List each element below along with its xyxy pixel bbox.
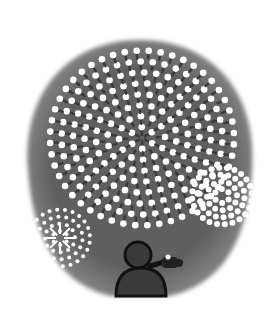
spark — [232, 176, 238, 182]
spark — [222, 221, 228, 227]
spark — [140, 211, 147, 218]
spark — [128, 210, 135, 217]
spark — [103, 66, 110, 73]
spark — [83, 79, 90, 86]
spark — [123, 94, 130, 101]
spark — [110, 52, 117, 59]
spark — [225, 172, 231, 178]
spark — [191, 203, 197, 209]
spark — [200, 215, 206, 221]
spark — [61, 153, 68, 160]
spark — [111, 182, 118, 189]
spark — [214, 221, 220, 227]
spark — [116, 136, 123, 143]
spark — [172, 127, 179, 134]
spark — [221, 214, 227, 220]
spark — [222, 97, 229, 104]
spark — [45, 253, 49, 257]
spark — [78, 200, 85, 207]
spark — [182, 119, 189, 126]
person-body — [116, 268, 166, 296]
spark — [158, 95, 165, 102]
spark — [47, 140, 54, 147]
spark — [124, 199, 131, 206]
spark — [75, 110, 82, 117]
spark — [105, 143, 112, 150]
spark — [217, 172, 223, 178]
spark — [225, 189, 231, 195]
spark — [71, 243, 75, 247]
spark — [28, 239, 32, 243]
spark — [56, 215, 60, 219]
spark — [189, 196, 195, 202]
spark — [106, 77, 113, 84]
spark — [87, 207, 94, 214]
spark — [226, 107, 233, 114]
spark — [161, 61, 168, 68]
spark — [113, 196, 120, 203]
spark — [59, 142, 66, 149]
spark — [204, 194, 210, 200]
spark — [239, 202, 245, 208]
spark — [117, 72, 124, 79]
spark — [246, 205, 252, 211]
spark — [99, 56, 106, 63]
spark — [206, 201, 212, 207]
spark — [45, 244, 49, 248]
spark — [82, 219, 86, 223]
spark — [206, 186, 212, 192]
spark — [70, 77, 77, 84]
spark — [112, 99, 119, 106]
spark — [165, 170, 172, 177]
spark — [209, 166, 215, 172]
spark — [249, 198, 255, 204]
spark — [51, 162, 58, 169]
spark — [136, 102, 143, 109]
spark — [120, 220, 127, 227]
spark — [83, 147, 90, 154]
spark — [80, 100, 87, 107]
spark — [149, 59, 156, 66]
spark — [126, 116, 133, 123]
spark — [229, 118, 236, 125]
spark — [219, 128, 226, 135]
spark — [69, 192, 76, 199]
spark — [231, 167, 237, 173]
spark — [42, 221, 46, 225]
spark — [232, 185, 238, 191]
spark — [242, 211, 248, 217]
spark — [157, 49, 164, 56]
person-head — [125, 242, 151, 268]
spark — [131, 178, 138, 185]
spark — [70, 174, 77, 181]
spark — [141, 69, 148, 76]
spark — [75, 259, 79, 263]
spark — [96, 150, 103, 157]
spark — [52, 257, 56, 261]
spark — [153, 71, 160, 78]
spark — [132, 222, 139, 229]
spark — [52, 106, 59, 113]
spark — [63, 108, 70, 115]
spark — [80, 238, 84, 242]
spark — [66, 248, 70, 252]
spark — [121, 49, 128, 56]
spark — [109, 88, 116, 95]
spark — [56, 95, 63, 102]
firework-illustration — [0, 0, 278, 321]
spark — [70, 144, 77, 151]
spark — [179, 213, 186, 220]
spark — [149, 140, 156, 147]
spark — [189, 188, 195, 194]
spark — [39, 258, 43, 262]
spark — [230, 141, 237, 148]
spark — [168, 182, 175, 189]
spark — [213, 197, 219, 203]
spark — [156, 83, 163, 90]
spark — [217, 117, 224, 124]
spark — [64, 164, 71, 171]
spark — [212, 206, 218, 212]
spark — [103, 107, 110, 114]
spark — [211, 181, 217, 187]
spark — [86, 113, 93, 120]
